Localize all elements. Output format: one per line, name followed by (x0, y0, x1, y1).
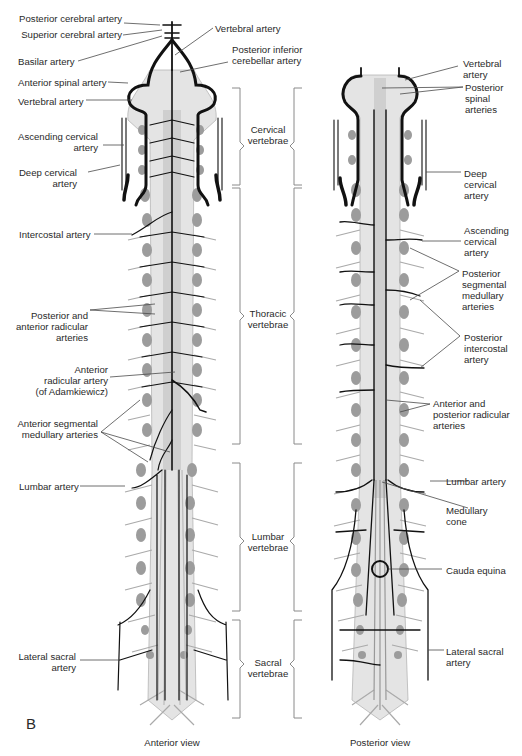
caption-anterior-view: Anterior view (132, 737, 212, 748)
label-ascending-cervical-artery-left: Ascending cervical artery (18, 131, 98, 153)
label-lateral-sacral-artery-right: Lateral sacral artery (446, 646, 504, 668)
label-cervical-vertebrae: Cervical vertebrae (244, 124, 292, 146)
label-lateral-sacral-artery-left: Lateral sacral artery (18, 651, 76, 673)
label-vertebral-artery-center: Vertebral artery (215, 23, 281, 34)
label-anterior-segmental-medullary-arteries: Anterior segmental medullary arteries (17, 418, 98, 440)
label-basilar-artery: Basilar artery (18, 56, 75, 67)
label-deep-cervical-artery-right: Deep cervical artery (464, 168, 497, 201)
label-anterior-spinal-artery: Anterior spinal artery (18, 77, 107, 88)
label-posterior-inferior-cerebellar-artery: Posterior inferior cerebellar artery (232, 44, 302, 66)
caption-posterior-view: Posterior view (340, 737, 420, 748)
panel-letter: B (26, 718, 36, 729)
label-lumbar-vertebrae: Lumbar vertebrae (244, 531, 292, 553)
label-lumbar-artery-left: Lumbar artery (19, 481, 79, 492)
spinal-artery-figure: Posterior cerebral artery Superior cereb… (0, 0, 522, 756)
label-medullary-cone: Medullary cone (446, 505, 488, 527)
label-vertebral-artery-left: Vertebral artery (18, 96, 84, 107)
anterior-spine-illustration (118, 22, 228, 725)
label-posterior-anterior-radicular-arteries: Posterior and anterior radicular arterie… (16, 310, 88, 343)
label-vertebral-artery-right: Vertebral artery (463, 58, 501, 80)
label-intercostal-artery: Intercostal artery (19, 229, 90, 240)
label-anterior-posterior-radicular-arteries: Anterior and posterior radicular arterie… (433, 398, 510, 431)
label-posterior-spinal-arteries: Posterior spinal arteries (465, 82, 503, 115)
label-ascending-cervical-artery-right: Ascending cervical artery (464, 225, 509, 258)
region-brackets (232, 88, 302, 718)
label-superior-cerebral-artery: Superior cerebral artery (21, 29, 122, 40)
label-adamkiewicz-artery: Anterior radicular artery (of Adamkiewic… (35, 364, 108, 397)
label-sacral-vertebrae: Sacral vertebrae (244, 657, 292, 679)
posterior-spine-illustration (332, 68, 428, 725)
label-posterior-intercostal-artery: Posterior intercostal artery (464, 332, 508, 365)
label-posterior-cerebral-artery: Posterior cerebral artery (19, 13, 122, 24)
label-deep-cervical-artery-left: Deep cervical artery (19, 167, 77, 189)
label-posterior-segmental-medullary-arteries: Posterior segmental medullary arteries (462, 268, 506, 312)
label-lumbar-artery-right: Lumbar artery (446, 476, 506, 487)
label-thoracic-vertebrae: Thoracic vertebrae (244, 308, 292, 330)
label-cauda-equina: Cauda equina (446, 565, 506, 576)
